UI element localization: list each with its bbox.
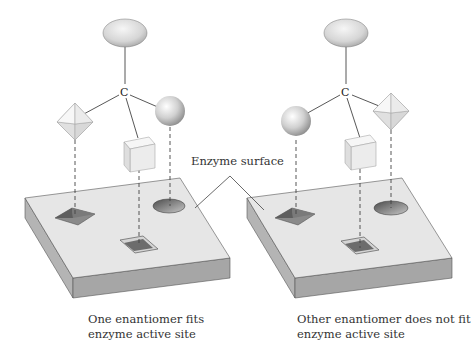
enzyme-slab-right bbox=[247, 178, 452, 298]
round-pit bbox=[153, 199, 185, 213]
center-atom-left: C bbox=[120, 86, 128, 99]
cube-right bbox=[345, 135, 376, 170]
left-caption: One enantiomer fits enzyme active site bbox=[88, 312, 204, 342]
enzyme-surface-label: Enzyme surface bbox=[191, 154, 284, 168]
sphere-right-left bbox=[155, 96, 185, 126]
ellipsoid-top-left bbox=[103, 19, 147, 47]
ellipsoid-top-right bbox=[324, 19, 368, 47]
right-caption-line1: Other enantiomer does not fit bbox=[297, 312, 471, 327]
right-caption: Other enantiomer does not fit enzyme act… bbox=[297, 312, 471, 342]
octahedron-left bbox=[57, 103, 93, 140]
cube-left bbox=[124, 137, 155, 172]
octahedron-right bbox=[373, 93, 409, 130]
left-caption-line1: One enantiomer fits bbox=[88, 312, 204, 327]
right-caption-line2: enzyme active site bbox=[297, 327, 471, 342]
enzyme-slab-left bbox=[25, 178, 230, 298]
sphere-left-right bbox=[281, 106, 311, 136]
center-atom-right: C bbox=[341, 86, 349, 99]
left-caption-line2: enzyme active site bbox=[88, 327, 204, 342]
